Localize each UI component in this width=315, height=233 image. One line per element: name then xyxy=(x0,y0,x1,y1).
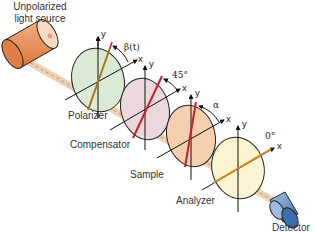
compensator-label: Compensator xyxy=(70,139,131,150)
source-label-line2: light source xyxy=(14,13,66,24)
polarizer-label: Polarizer xyxy=(68,110,108,121)
analyzer-angle: 0° xyxy=(265,131,275,141)
detector-label: Detector xyxy=(272,222,310,233)
sample-axis-x: x xyxy=(226,113,231,124)
sample-angle: α xyxy=(213,100,219,110)
analyzer-axis-y: y xyxy=(242,118,247,129)
polarizer-axis-y: y xyxy=(101,28,106,39)
analyzer-label: Analyzer xyxy=(176,195,216,206)
polarizer-axis-x: x xyxy=(138,53,143,64)
compensator-axis-x: x xyxy=(182,82,187,93)
compensator-angle: 45° xyxy=(172,70,188,80)
source-label-line1: Unpolarized xyxy=(13,1,66,12)
sample-axis-y: y xyxy=(195,87,200,98)
sample-label: Sample xyxy=(130,169,164,180)
ellipsometer-diagram: Unpolarized light source y x β(t) Polari… xyxy=(0,0,315,233)
compensator-axis-y: y xyxy=(149,58,154,69)
analyzer-axis-x: x xyxy=(277,140,282,151)
polarizer-angle: β(t) xyxy=(124,42,140,52)
